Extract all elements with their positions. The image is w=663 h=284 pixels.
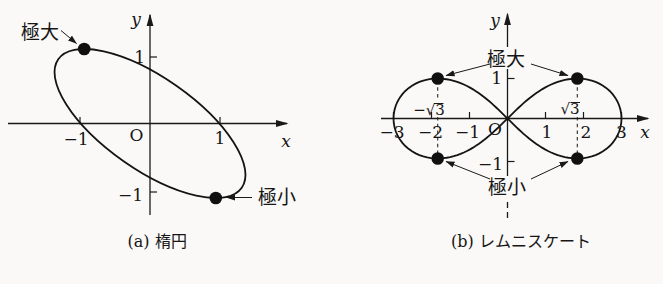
b-maximum-arrow-right xyxy=(531,64,568,76)
b-y-axis-label: y xyxy=(489,10,500,30)
a-minimum-point-dot xyxy=(210,192,223,205)
figure-canvas: 極大 極小 y x O 1 −1 −1 1 (a) 楕円 xyxy=(0,0,663,284)
a-caption: (a) 楕円 xyxy=(127,232,186,251)
b-x-axis-label: x xyxy=(640,122,650,142)
a-ytick-label-neg1: −1 xyxy=(118,185,143,205)
b-maximum-label: 極大 xyxy=(487,48,525,70)
b-origin-label: O xyxy=(488,119,502,139)
a-origin-label: O xyxy=(130,125,144,145)
b-minimum-left-dot xyxy=(431,152,444,165)
b-xtick-label-2: 2 xyxy=(581,122,592,142)
textbook-figure: 極大 極小 y x O 1 −1 −1 1 (a) 楕円 xyxy=(0,0,663,284)
a-ytick-label-1: 1 xyxy=(134,47,145,67)
a-y-axis-label: y xyxy=(130,9,141,29)
b-ytick-label-1: 1 xyxy=(491,68,502,88)
b-xtick-label-neg1: −1 xyxy=(455,122,480,142)
b-maximum-arrow-left xyxy=(446,64,490,76)
b-maximum-left-dot xyxy=(431,72,444,85)
b-minimum-arrow-right xyxy=(531,162,568,180)
a-minimum-label: 極小 xyxy=(258,186,296,208)
b-xtick-label-neg3: −3 xyxy=(379,122,404,142)
a-x-axis-label: x xyxy=(281,131,291,151)
figure-a-plot: 極大 極小 y x O 1 −1 −1 1 (a) 楕円 xyxy=(8,9,296,251)
a-maximum-arrow xyxy=(61,31,77,44)
b-caption: (b) レムニスケート xyxy=(451,232,591,251)
b-minimum-right-dot xyxy=(571,152,584,165)
a-xtick-label-1: 1 xyxy=(215,128,226,148)
a-maximum-point-dot xyxy=(78,43,91,56)
b-xtick-label-1: 1 xyxy=(542,122,553,142)
a-maximum-label: 極大 xyxy=(21,21,59,43)
b-maximum-right-dot xyxy=(571,72,584,85)
a-xtick-label-neg1: −1 xyxy=(63,129,88,149)
b-ytick-label-neg1: −1 xyxy=(478,154,503,174)
b-xtick-label-neg2: −2 xyxy=(418,122,443,142)
b-minimum-label: 極小 xyxy=(488,176,526,198)
b-xtick-label-3: 3 xyxy=(616,122,627,142)
figure-b-plot: 極大 極小 y x O 1 −1 −3 −2 −1 1 2 3 −√3 √3 (… xyxy=(379,10,650,251)
